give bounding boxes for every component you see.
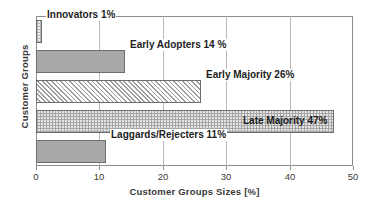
bar-chart: Customer Groups Innovators 1%Early Adopt…: [0, 0, 373, 212]
data-label: Early Adopters 14 %: [129, 39, 227, 51]
x-axis-tick-label: 0: [16, 171, 56, 182]
bar-early-majority: [36, 80, 201, 103]
bar-innovators: [36, 20, 42, 43]
bar-early-adopters: [36, 50, 125, 73]
x-axis-tick-label: 50: [333, 171, 373, 182]
x-axis-tick: [353, 166, 354, 170]
data-label: Early Majority 26%: [205, 69, 295, 81]
x-axis-tick-label: 40: [270, 171, 310, 182]
data-label: Laggards/Rejecters 11%: [110, 129, 227, 141]
data-label: Late Majority 47%: [242, 115, 328, 127]
data-label: Innovators 1%: [46, 9, 116, 21]
bar-laggards-rejecters: [36, 140, 106, 163]
x-axis-tick-label: 20: [143, 171, 183, 182]
x-axis-tick: [36, 166, 37, 170]
x-axis-tick: [226, 166, 227, 170]
x-axis-title: Customer Groups Sizes [%]: [36, 186, 353, 197]
gridline: [290, 16, 291, 166]
x-axis-tick: [99, 166, 100, 170]
x-axis-tick: [290, 166, 291, 170]
x-axis-tick: [163, 166, 164, 170]
x-axis-tick-label: 30: [206, 171, 246, 182]
x-axis-tick-label: 10: [79, 171, 119, 182]
y-axis-title: Customer Groups: [19, 22, 30, 152]
